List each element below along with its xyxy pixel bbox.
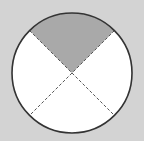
fraction-circle-diagram — [0, 0, 144, 141]
